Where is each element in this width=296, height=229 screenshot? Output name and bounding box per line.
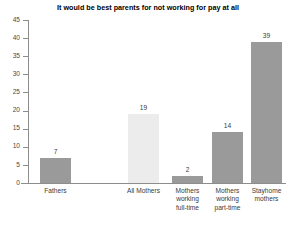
bar-value-label: 7 (40, 149, 71, 156)
y-axis-tick (23, 20, 28, 21)
y-axis-tick (23, 165, 28, 166)
y-axis-tick (23, 38, 28, 39)
x-axis-category-label: Stayhome mothers (245, 187, 288, 204)
y-axis-tick-label: 0 (0, 180, 20, 187)
bar-value-label: 19 (128, 105, 159, 112)
bar (40, 158, 71, 183)
y-axis-tick-label: 40 (0, 35, 20, 42)
y-axis-tick (23, 111, 28, 112)
y-axis-tick (23, 92, 28, 93)
bar-value-label: 14 (212, 123, 243, 130)
y-axis-tick-label: 35 (0, 53, 20, 60)
bar (251, 42, 282, 183)
y-axis-tick (23, 56, 28, 57)
y-axis-tick-label: 10 (0, 143, 20, 150)
x-axis-category-label: Fathers (34, 187, 77, 195)
y-axis-tick-label: 25 (0, 89, 20, 96)
y-axis-tick-label: 15 (0, 125, 20, 132)
bar (212, 132, 243, 183)
y-axis-tick (23, 147, 28, 148)
y-axis-tick (23, 74, 28, 75)
bar-chart: It would be best parents for not working… (0, 0, 296, 229)
chart-title: It would be best parents for not working… (0, 3, 296, 12)
bar-value-label: 2 (172, 167, 203, 174)
y-axis-tick-label: 45 (0, 17, 20, 24)
x-axis-baseline (21, 183, 286, 184)
y-axis-tick-label: 20 (0, 107, 20, 114)
x-axis-category-label: Mothers working full-time (166, 187, 209, 212)
x-axis-category-label: Mothers working part-time (206, 187, 249, 212)
y-axis-tick-label: 30 (0, 71, 20, 78)
bar (172, 176, 203, 183)
bar (128, 114, 159, 183)
bar-value-label: 39 (251, 33, 282, 40)
y-axis-tick (23, 129, 28, 130)
y-axis-tick-label: 5 (0, 162, 20, 169)
x-axis-category-label: All Mothers (122, 187, 165, 195)
y-axis-spine (28, 20, 29, 184)
